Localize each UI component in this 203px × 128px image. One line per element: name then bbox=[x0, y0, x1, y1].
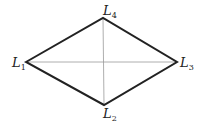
vertex-subscript: 4 bbox=[112, 11, 117, 20]
vertex-label-l2: L2 bbox=[103, 107, 117, 123]
vertex-subscript: 3 bbox=[189, 63, 194, 72]
vertex-letter: L bbox=[103, 106, 112, 121]
vertex-label-l3: L3 bbox=[180, 56, 194, 72]
diagonal-l4-l2 bbox=[103, 18, 104, 105]
vertex-subscript: 1 bbox=[21, 63, 26, 72]
vertex-letter: L bbox=[12, 55, 21, 70]
rhombus-outline bbox=[26, 18, 177, 105]
vertex-letter: L bbox=[103, 3, 112, 18]
rhombus-figure bbox=[0, 0, 203, 128]
vertex-label-l1: L1 bbox=[12, 56, 26, 72]
vertex-label-l4: L4 bbox=[103, 4, 117, 20]
rhombus-diagram: L4 L1 L3 L2 bbox=[0, 0, 203, 128]
vertex-subscript: 2 bbox=[112, 114, 117, 123]
vertex-letter: L bbox=[180, 55, 189, 70]
